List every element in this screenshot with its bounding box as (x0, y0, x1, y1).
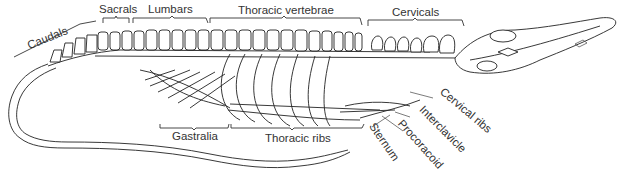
skull (455, 18, 616, 74)
vertebral-column (48, 30, 460, 66)
neural-spines (98, 30, 362, 51)
thoracic-rib-bones (221, 54, 380, 126)
label-cervicals: Cervicals (392, 7, 439, 19)
skeleton-drawing (0, 0, 622, 192)
label-gastralia: Gastralia (172, 131, 218, 143)
label-lumbars: Lumbars (148, 4, 193, 16)
skeleton-diagram: Caudals Sacrals Lumbars Thoracic vertebr… (0, 0, 622, 192)
cervical-vertebrae (371, 35, 454, 53)
gastralia-bones (140, 70, 235, 108)
label-thoracic-vertebrae: Thoracic vertebrae (238, 5, 334, 17)
label-sacrals: Sacrals (99, 4, 137, 16)
tail (9, 64, 350, 168)
label-thoracic-ribs: Thoracic ribs (265, 133, 331, 145)
